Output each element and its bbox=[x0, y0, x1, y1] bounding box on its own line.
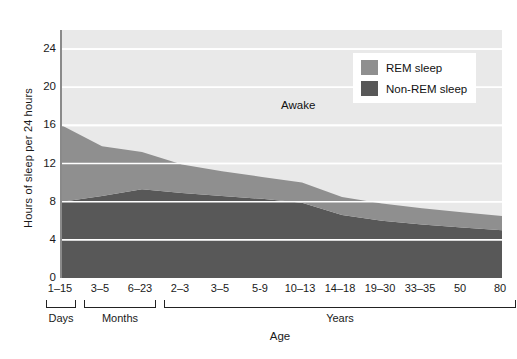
chart-legend: REM sleep Non-REM sleep bbox=[353, 53, 476, 103]
x-tick-label: 10–13 bbox=[285, 282, 316, 294]
x-tick-label: 1–15 bbox=[48, 282, 72, 294]
y-tick-label: 12 bbox=[34, 158, 56, 170]
group-bracket-label: Months bbox=[102, 312, 138, 324]
group-bracket bbox=[46, 300, 76, 308]
non-rem-sleep-area bbox=[62, 189, 502, 278]
x-tick-label: 50 bbox=[454, 282, 466, 294]
y-tick-label: 20 bbox=[34, 81, 56, 93]
y-tick-label: 8 bbox=[34, 196, 56, 208]
sleep-stages-chart-figure: Hours of sleep per 24 hours 04812162024 … bbox=[0, 0, 517, 359]
x-tick-label: 14–18 bbox=[325, 282, 356, 294]
x-axis-title: Age bbox=[60, 330, 500, 342]
y-tick-label: 4 bbox=[34, 234, 56, 246]
rem-sleep-swatch bbox=[361, 60, 378, 75]
legend-label-rem-sleep: REM sleep bbox=[386, 62, 442, 74]
legend-item-rem-sleep: REM sleep bbox=[361, 60, 467, 75]
x-tick-label: 5-9 bbox=[252, 282, 268, 294]
awake-region-label: Awake bbox=[281, 99, 315, 111]
x-axis-group-brackets: DaysMonthsYears bbox=[60, 300, 500, 334]
x-tick-label: 3–5 bbox=[211, 282, 229, 294]
group-bracket bbox=[164, 300, 516, 308]
x-tick-label: 33–35 bbox=[405, 282, 436, 294]
x-tick-label: 19–30 bbox=[365, 282, 396, 294]
x-tick-label: 3–5 bbox=[91, 282, 109, 294]
y-tick-label: 16 bbox=[34, 119, 56, 131]
x-tick-label: 80 bbox=[494, 282, 506, 294]
group-bracket bbox=[84, 300, 156, 308]
non-rem-sleep-swatch bbox=[361, 81, 378, 96]
x-tick-label: 6–23 bbox=[128, 282, 152, 294]
group-bracket-label: Years bbox=[326, 312, 354, 324]
x-tick-label: 2–3 bbox=[171, 282, 189, 294]
legend-label-non-rem-sleep: Non-REM sleep bbox=[386, 83, 467, 95]
legend-item-non-rem-sleep: Non-REM sleep bbox=[361, 81, 467, 96]
group-bracket-label: Days bbox=[48, 312, 73, 324]
y-tick-label: 24 bbox=[34, 43, 56, 55]
x-axis-tick-labels: 1–153–56–232–33–55-910–1314–1819–3033–35… bbox=[60, 282, 500, 298]
